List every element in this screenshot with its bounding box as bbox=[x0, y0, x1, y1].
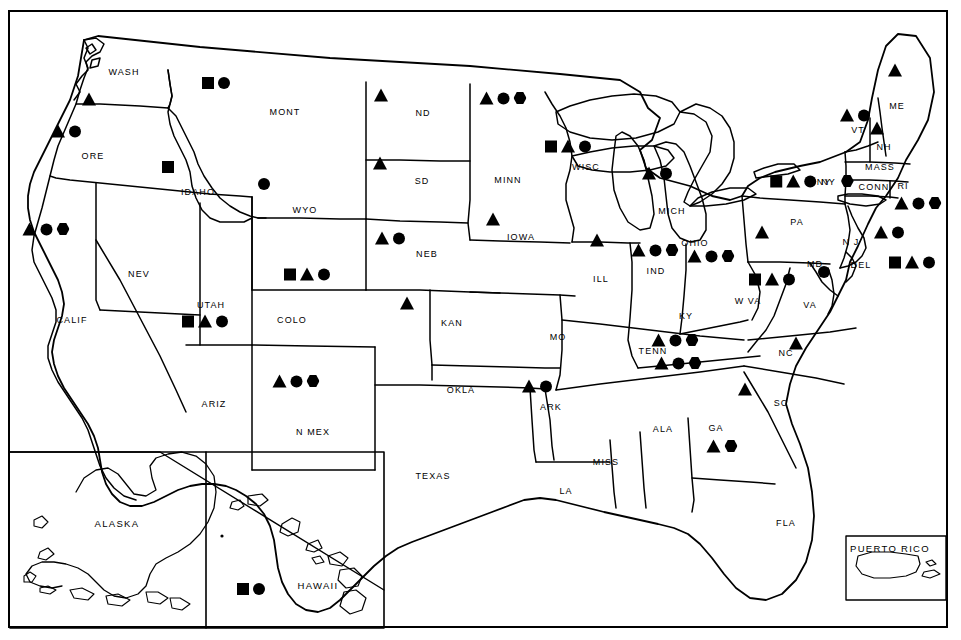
symbol-group-sd bbox=[373, 157, 387, 170]
symbol-group-ill bbox=[590, 234, 604, 247]
state-label-va: VA bbox=[803, 300, 817, 310]
state-label-ala: ALA bbox=[653, 424, 673, 434]
symbol-group-ore bbox=[51, 125, 81, 138]
state-label-mont: MONT bbox=[270, 107, 301, 117]
state-label-ind: IND bbox=[647, 266, 666, 276]
state-label-mo: MO bbox=[550, 332, 567, 342]
hexagon-marker-icon bbox=[725, 440, 738, 453]
state-label-nc: NC bbox=[778, 348, 793, 358]
circle-marker-icon bbox=[258, 178, 270, 190]
circle-marker-icon bbox=[783, 273, 795, 285]
symbol-group-minn bbox=[480, 92, 527, 105]
symbol-group-pa bbox=[755, 226, 769, 239]
state-label-sd: SD bbox=[415, 176, 430, 186]
symbol-group-ind bbox=[632, 244, 679, 257]
triangle-marker-icon bbox=[688, 250, 702, 263]
circle-marker-icon bbox=[670, 334, 682, 346]
square-marker-icon bbox=[284, 268, 296, 280]
state-label-vt: VT bbox=[851, 125, 865, 135]
state-label-mich: MICH bbox=[658, 206, 685, 216]
state-label-minn: MINN bbox=[494, 175, 521, 185]
state-label-utah: UTAH bbox=[197, 300, 225, 310]
triangle-marker-icon bbox=[755, 226, 769, 239]
circle-marker-icon bbox=[318, 268, 330, 280]
state-label-ri: RI bbox=[897, 181, 908, 191]
state-label-wyo: WYO bbox=[293, 205, 318, 215]
state-label-calif: CALIF bbox=[56, 315, 87, 325]
triangle-marker-icon bbox=[486, 213, 500, 226]
triangle-marker-icon bbox=[840, 109, 854, 122]
triangle-marker-icon bbox=[655, 357, 669, 370]
state-label-ohio: OHIO bbox=[681, 238, 708, 248]
triangle-marker-icon bbox=[82, 93, 96, 106]
state-label-colo: COLO bbox=[277, 315, 307, 325]
square-marker-icon bbox=[182, 315, 194, 327]
state-label-ore: ORE bbox=[82, 151, 105, 161]
circle-marker-icon bbox=[650, 244, 662, 256]
state-label-miss: MISS bbox=[593, 457, 619, 467]
hexagon-marker-icon bbox=[57, 223, 70, 236]
circle-marker-icon bbox=[218, 77, 230, 89]
symbol-group-n-mex bbox=[273, 375, 320, 388]
triangle-marker-icon bbox=[632, 244, 646, 257]
triangle-marker-icon bbox=[738, 383, 752, 396]
state-label-pa: PA bbox=[790, 217, 804, 227]
triangle-marker-icon bbox=[786, 175, 800, 188]
state-label-del: DEL bbox=[851, 260, 872, 270]
square-marker-icon bbox=[162, 161, 174, 173]
state-label-wash: WASH bbox=[108, 67, 139, 77]
circle-marker-icon bbox=[253, 583, 265, 595]
state-label-ny-inline: NY bbox=[820, 176, 837, 186]
symbol-group-me bbox=[888, 64, 902, 77]
triangle-marker-icon bbox=[273, 375, 287, 388]
symbol-group-vt bbox=[840, 109, 870, 122]
triangle-marker-icon bbox=[874, 226, 888, 239]
circle-marker-icon bbox=[41, 223, 53, 235]
symbol-group-colo bbox=[284, 268, 330, 281]
state-label-okla: OKLA bbox=[447, 385, 475, 395]
symbol-group-hawaii bbox=[237, 583, 265, 595]
symbol-group-sc bbox=[738, 383, 752, 396]
state-label-nh: NH bbox=[876, 142, 891, 152]
triangle-marker-icon bbox=[888, 64, 902, 77]
triangle-marker-icon bbox=[51, 125, 65, 138]
triangle-marker-icon bbox=[300, 268, 314, 281]
circle-marker-icon bbox=[913, 197, 925, 209]
state-label-hawaii: HAWAII bbox=[298, 580, 339, 591]
circle-marker-icon bbox=[804, 175, 816, 187]
hexagon-marker-icon bbox=[686, 334, 699, 347]
triangle-marker-icon bbox=[789, 337, 803, 350]
state-label-wisc: WISC bbox=[572, 162, 600, 172]
triangle-marker-icon bbox=[198, 315, 212, 328]
triangle-marker-icon bbox=[373, 157, 387, 170]
square-marker-icon bbox=[202, 77, 214, 89]
state-label-kan: KAN bbox=[441, 318, 463, 328]
symbol-group-del bbox=[889, 256, 935, 269]
hexagon-marker-icon bbox=[307, 375, 320, 388]
symbol-group-wash bbox=[82, 93, 96, 106]
state-label-ariz: ARIZ bbox=[202, 399, 227, 409]
symbol-group-ohio bbox=[688, 250, 735, 263]
state-label-conn: CONN bbox=[859, 182, 890, 192]
square-marker-icon bbox=[749, 273, 761, 285]
triangle-marker-icon bbox=[23, 223, 37, 236]
circle-marker-icon bbox=[892, 226, 904, 238]
symbol-group-neb bbox=[375, 232, 405, 245]
symbol-group-mass bbox=[895, 197, 942, 210]
symbol-group-wyo bbox=[258, 178, 270, 190]
circle-marker-icon bbox=[660, 167, 672, 179]
state-label-texas: TEXAS bbox=[415, 471, 450, 481]
square-marker-icon bbox=[770, 175, 782, 187]
triangle-marker-icon bbox=[765, 273, 779, 286]
symbol-group-nc bbox=[789, 337, 803, 350]
circle-marker-icon bbox=[291, 375, 303, 387]
square-marker-icon bbox=[545, 140, 557, 152]
symbol-group-calif bbox=[23, 223, 70, 236]
symbol-group-idaho bbox=[162, 161, 174, 173]
symbol-group-ga bbox=[707, 440, 738, 453]
state-label-idaho: IDAHO bbox=[181, 187, 215, 197]
state-label-mass: MASS bbox=[865, 162, 895, 172]
triangle-marker-icon bbox=[870, 122, 884, 135]
symbol-group-tenn bbox=[655, 357, 702, 370]
circle-marker-icon bbox=[858, 109, 870, 121]
